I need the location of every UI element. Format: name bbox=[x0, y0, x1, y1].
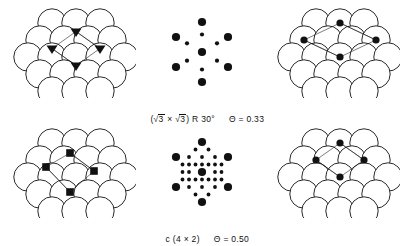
substrate-diffraction-spots bbox=[172, 18, 232, 86]
leed-spot-substrate bbox=[198, 78, 206, 86]
leed-spot-superlattice bbox=[213, 163, 217, 167]
adsorbate-marker-ontop bbox=[336, 173, 343, 180]
adsorbate-marker-ontop bbox=[372, 36, 379, 43]
leed-spot-superlattice bbox=[200, 163, 204, 167]
leed-spot-superlattice bbox=[200, 32, 204, 36]
leed-spot-superlattice bbox=[215, 59, 219, 63]
adsorbate-marker-square bbox=[66, 188, 74, 196]
leed-spot-superlattice bbox=[181, 178, 185, 182]
leed-spot-superlattice bbox=[200, 67, 204, 71]
leed-spot-superlattice bbox=[213, 155, 217, 159]
sqrt-term-2: √3 bbox=[175, 114, 186, 124]
substrate-atom-circles bbox=[14, 9, 136, 98]
sqrt-term-1: √3 bbox=[154, 114, 165, 124]
adsorbate-marker-ontop bbox=[360, 156, 367, 163]
leed-spot-superlattice bbox=[194, 178, 198, 182]
leed-pattern-sqrt3 bbox=[146, 8, 258, 96]
adsorbate-marker-ontop bbox=[336, 19, 343, 26]
caption-c4x2-coverage: Θ = 0.50 bbox=[214, 234, 249, 244]
leed-pattern-c4x2 bbox=[146, 128, 258, 216]
leed-spot-substrate bbox=[198, 18, 206, 26]
leed-spot-superlattice bbox=[207, 163, 211, 167]
caption-separator: × bbox=[165, 114, 176, 124]
leed-spot-substrate bbox=[224, 63, 232, 71]
leed-spot-superlattice bbox=[187, 178, 191, 182]
adsorbate-marker-ontop bbox=[300, 36, 307, 43]
leed-spot-substrate bbox=[224, 33, 232, 41]
leed-spot-substrate bbox=[172, 183, 180, 191]
hard-sphere-model-c4x2-hollow bbox=[8, 126, 136, 218]
leed-spot-substrate bbox=[198, 198, 206, 206]
leed-spot-substrate bbox=[198, 168, 206, 176]
leed-spot-substrate bbox=[198, 48, 206, 56]
leed-spot-substrate bbox=[224, 153, 232, 161]
leed-spot-superlattice bbox=[213, 185, 217, 189]
caption-c4x2: c (4 × 2)Θ = 0.50 bbox=[0, 224, 404, 246]
leed-spot-superlattice bbox=[207, 148, 211, 152]
caption-sqrt3-coverage: Θ = 0.33 bbox=[229, 114, 264, 124]
substrate-atom-circles bbox=[14, 129, 136, 218]
sqrt3-hollow-svg bbox=[8, 6, 136, 98]
leed-spot-superlattice bbox=[220, 170, 224, 174]
adsorbate-marker-ontop bbox=[312, 156, 319, 163]
adsorbate-marker-ontop bbox=[336, 139, 343, 146]
caption-sqrt3-structure: (√3 × √3) R 30° bbox=[150, 114, 214, 124]
leed-spot-superlattice bbox=[213, 170, 217, 174]
leed-spot-superlattice bbox=[215, 41, 219, 45]
leed-spot-superlattice bbox=[187, 185, 191, 189]
leed-spot-superlattice bbox=[207, 193, 211, 197]
hard-sphere-model-sqrt3-hollow bbox=[8, 6, 136, 98]
leed-spot-superlattice bbox=[200, 185, 204, 189]
leed-spot-superlattice bbox=[185, 41, 189, 45]
leed-spot-superlattice bbox=[213, 178, 217, 182]
leed-spot-substrate bbox=[224, 183, 232, 191]
leed-spot-superlattice bbox=[181, 163, 185, 167]
c4x2-ontop-svg bbox=[272, 126, 400, 218]
adsorbate-marker-square bbox=[90, 167, 98, 175]
leed-spot-superlattice bbox=[200, 155, 204, 159]
leed-sqrt3-svg bbox=[146, 8, 258, 96]
leed-spot-superlattice bbox=[194, 148, 198, 152]
leed-spot-superlattice bbox=[207, 178, 211, 182]
leed-spot-superlattice bbox=[187, 163, 191, 167]
sqrt3-ontop-svg bbox=[272, 6, 400, 98]
adsorbate-marker-square bbox=[42, 163, 50, 171]
adsorbate-marker-square bbox=[66, 149, 74, 157]
leed-spot-substrate bbox=[172, 33, 180, 41]
figure-root: (√3 × √3) R 30°Θ = 0.33 bbox=[0, 0, 404, 246]
leed-spot-superlattice bbox=[181, 170, 185, 174]
leed-spot-superlattice bbox=[187, 170, 191, 174]
leed-spot-superlattice bbox=[185, 59, 189, 63]
caption-c4x2-structure: c (4 × 2) bbox=[166, 234, 200, 244]
leed-spot-substrate bbox=[172, 153, 180, 161]
hard-sphere-model-sqrt3-ontop bbox=[272, 6, 400, 98]
leed-spot-superlattice bbox=[187, 155, 191, 159]
leed-spot-substrate bbox=[198, 138, 206, 146]
leed-spot-superlattice bbox=[194, 193, 198, 197]
leed-c4x2-svg bbox=[146, 128, 258, 216]
adsorbate-marker-ontop bbox=[336, 53, 343, 60]
leed-spot-superlattice bbox=[194, 163, 198, 167]
leed-spot-superlattice bbox=[220, 163, 224, 167]
c4x2-hollow-svg bbox=[8, 126, 136, 218]
leed-spot-superlattice bbox=[200, 178, 204, 182]
leed-spot-superlattice bbox=[220, 178, 224, 182]
hard-sphere-model-c4x2-ontop bbox=[272, 126, 400, 218]
leed-spot-substrate bbox=[172, 63, 180, 71]
